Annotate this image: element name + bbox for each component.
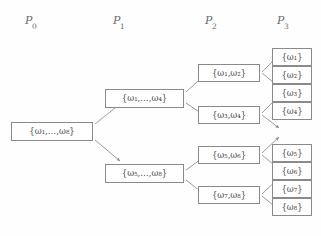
node-p3-1: {ω₁}: [272, 48, 312, 66]
node-p1-top: {ω₁,…,ω₄}: [105, 89, 184, 108]
node-label: {ω₅,ω₆}: [212, 151, 246, 160]
node-p3-2: {ω₂}: [272, 66, 312, 84]
node-label: {ω₇,ω₈}: [212, 191, 246, 200]
node-p2-d: {ω₇,ω₈}: [198, 186, 260, 204]
node-label: {ω₂}: [281, 71, 302, 80]
node-p3-8: {ω₈}: [272, 198, 312, 216]
node-label: {ω₄}: [281, 107, 302, 116]
column-header-p3: P3: [277, 14, 289, 29]
node-p3-7: {ω₇}: [272, 180, 312, 198]
node-p1-bottom: {ω₅,…,ω₈}: [105, 164, 184, 183]
node-label: {ω₃,ω₄}: [212, 111, 246, 120]
node-label: {ω₃}: [281, 89, 302, 98]
column-header-p2-subscript: 2: [212, 22, 217, 31]
node-label: {ω₁,…,ω₄}: [122, 94, 167, 103]
node-p3-4: {ω₄}: [272, 102, 312, 120]
node-p3-3: {ω₃}: [272, 84, 312, 102]
node-p2-c: {ω₅,ω₆}: [198, 146, 260, 164]
node-label: {ω₅,…,ω₈}: [122, 169, 167, 178]
node-label: {ω₁}: [281, 53, 302, 62]
partition-refinement-diagram: P0 P1 P2 P3 {ω₁,…,ω₈} {ω₁,…,ω₄} {ω₅,…,ω₈…: [0, 0, 321, 236]
node-p3-5: {ω₅}: [272, 144, 312, 162]
node-label: {ω₈}: [281, 203, 302, 212]
node-p2-b: {ω₃,ω₄}: [198, 106, 260, 124]
node-label: {ω₅}: [281, 149, 302, 158]
column-header-p3-subscript: 3: [284, 22, 289, 31]
column-header-p1-subscript: 1: [120, 22, 125, 31]
node-p2-a: {ω₁,ω₂}: [198, 64, 260, 82]
column-header-p0-subscript: 0: [32, 22, 37, 31]
node-label: {ω₆}: [281, 167, 302, 176]
node-label: {ω₇}: [281, 185, 302, 194]
column-header-p1: P1: [113, 14, 125, 29]
node-label: {ω₁,ω₂}: [212, 69, 246, 78]
column-header-p0: P0: [25, 14, 37, 29]
node-p3-6: {ω₆}: [272, 162, 312, 180]
node-label: {ω₁,…,ω₈}: [29, 127, 74, 136]
column-header-p2: P2: [205, 14, 217, 29]
node-p0-root: {ω₁,…,ω₈}: [11, 122, 93, 141]
edge-p0_root-to-p1_bottom: [95, 140, 120, 161]
